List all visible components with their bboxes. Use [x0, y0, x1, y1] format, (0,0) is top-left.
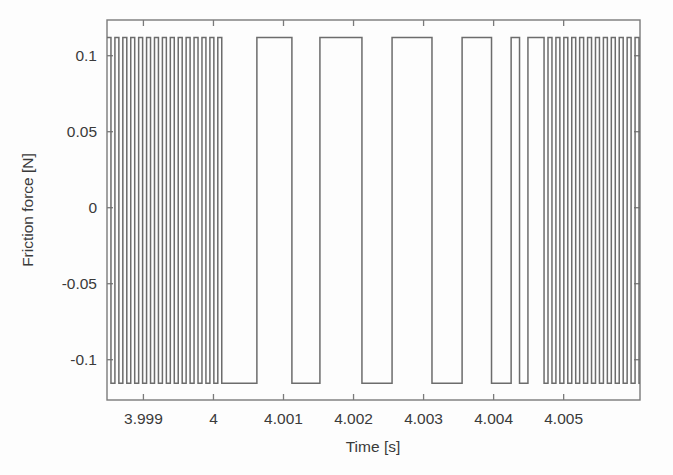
figure-container: 3.99944.0014.0024.0034.0044.0050.10.050-… [0, 0, 673, 475]
x-tick-label-6: 4.005 [544, 410, 583, 427]
x-tick-label-2: 4.001 [264, 410, 303, 427]
signal-path-0 [107, 37, 640, 383]
y-tick-label-4: -0.1 [70, 351, 97, 368]
friction-force-chart: 3.99944.0014.0024.0034.0044.0050.10.050-… [0, 0, 673, 475]
x-tick-label-5: 4.004 [474, 410, 513, 427]
x-axis-title: Time [s] [346, 438, 401, 455]
x-tick-label-4: 4.003 [404, 410, 443, 427]
y-tick-label-1: 0.05 [67, 123, 97, 140]
x-tick-label-0: 3.999 [124, 410, 163, 427]
signal-trace [107, 37, 640, 383]
y-tick-label-2: 0 [88, 199, 97, 216]
y-tick-label-3: -0.05 [62, 275, 97, 292]
y-tick-label-0: 0.1 [75, 47, 97, 64]
axis-tick-labels: 3.99944.0014.0024.0034.0044.0050.10.050-… [62, 47, 583, 427]
y-axis-title: Friction force [N] [19, 153, 36, 267]
x-tick-label-3: 4.002 [334, 410, 373, 427]
x-tick-label-1: 4 [209, 410, 218, 427]
